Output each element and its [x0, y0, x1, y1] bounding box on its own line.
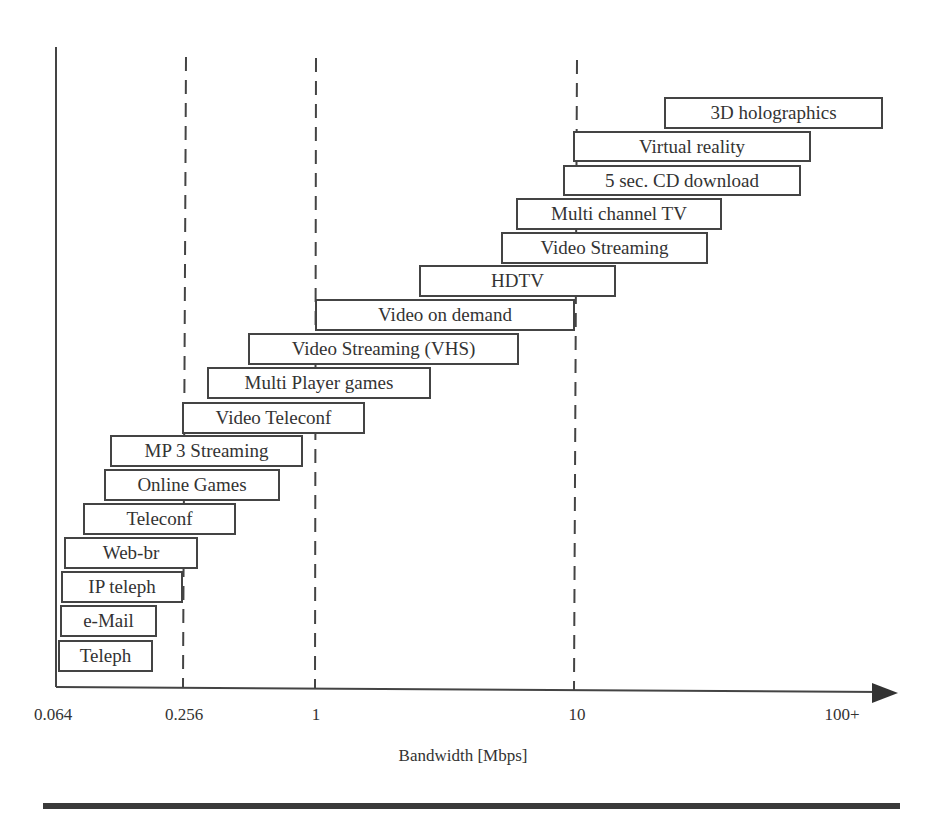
application-box: Virtual reality — [573, 131, 811, 162]
application-box: Video Streaming (VHS) — [248, 333, 519, 365]
x-axis-arrow-icon — [872, 683, 898, 703]
application-box: Video on demand — [315, 299, 575, 331]
application-box: Video Streaming — [501, 232, 708, 264]
application-box: Video Teleconf — [182, 402, 365, 434]
application-box: MP 3 Streaming — [110, 435, 303, 467]
application-box: Online Games — [104, 469, 280, 501]
bottom-rule — [43, 803, 900, 809]
application-box: 3D holographics — [664, 97, 883, 129]
x-tick-label: 0.256 — [165, 705, 203, 725]
bandwidth-chart: 3D holographicsVirtual reality5 sec. CD … — [0, 0, 936, 817]
x-tick-label: 10 — [569, 705, 586, 725]
application-box: Multi Player games — [207, 367, 431, 399]
x-tick-label: 1 — [312, 705, 321, 725]
application-box: IP teleph — [61, 571, 183, 603]
application-box: Multi channel TV — [516, 198, 722, 230]
x-tick-label: 0.064 — [34, 705, 72, 725]
application-box: 5 sec. CD download — [563, 165, 801, 196]
ref-line-0.256 — [183, 57, 186, 687]
x-tick-label: 100+ — [824, 705, 859, 725]
application-box: HDTV — [419, 265, 616, 297]
application-box: Web-br — [64, 537, 198, 569]
application-box: e-Mail — [60, 605, 157, 637]
application-box: Teleph — [58, 640, 153, 672]
x-axis — [56, 687, 882, 692]
application-box: Teleconf — [83, 503, 236, 535]
x-axis-label: Bandwidth [Mbps] — [399, 746, 528, 766]
